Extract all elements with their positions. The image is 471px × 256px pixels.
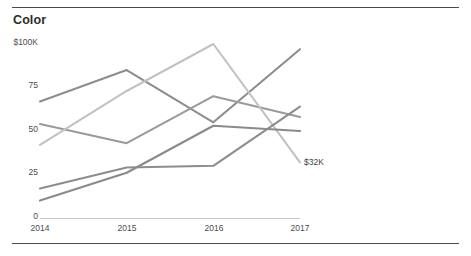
y-tick-label-75: 75 <box>4 81 38 90</box>
y-tick-label-25: 25 <box>4 168 38 177</box>
line-series-series-5[interactable] <box>40 126 300 201</box>
y-tick-label-100: $100K <box>4 38 38 47</box>
chart-card: Color $100K 75 50 25 0 2014 2015 2016 20… <box>0 0 471 256</box>
y-tick-label-0: 0 <box>4 212 38 221</box>
line-series-series-3[interactable] <box>40 44 300 162</box>
x-tick-label-2016: 2016 <box>196 224 232 233</box>
series-group <box>40 44 300 201</box>
line-chart-svg <box>0 0 471 256</box>
line-series-series-1[interactable] <box>40 49 300 122</box>
x-tick-label-2017: 2017 <box>282 224 318 233</box>
chart-plot-area: $100K 75 50 25 0 2014 2015 2016 2017 $32… <box>0 0 471 256</box>
x-tick-label-2015: 2015 <box>109 224 145 233</box>
y-tick-label-50: 50 <box>4 125 38 134</box>
card-bottom-rule <box>12 243 459 244</box>
series-endpoint-annotation: $32K <box>304 158 324 167</box>
x-tick-label-2014: 2014 <box>22 224 58 233</box>
